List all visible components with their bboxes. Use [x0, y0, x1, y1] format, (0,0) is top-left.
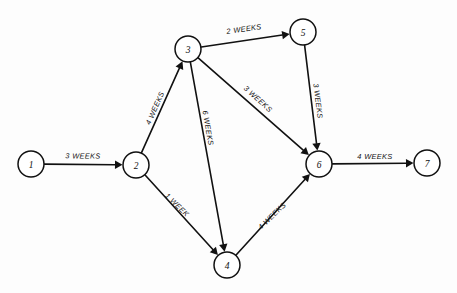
network-diagram-canvas: 3 WEEKS4 WEEKS1 WEEK2 WEEKS3 WEEKS6 WEEK… — [0, 0, 457, 293]
edge-line-6-to-7 — [333, 163, 407, 164]
edge-labels-layer: 3 WEEKS4 WEEKS1 WEEK2 WEEKS3 WEEKS6 WEEK… — [65, 22, 392, 231]
node-label-1: 1 — [29, 160, 34, 170]
node-2[interactable]: 2 — [123, 152, 149, 178]
edge-label-4-to-6: 4 WEEKS — [256, 200, 288, 231]
edge-label-6-to-7: 4 WEEKS — [357, 152, 392, 161]
edge-label-2-to-4: 1 WEEK — [163, 191, 191, 219]
arrowhead-icon-1-to-2 — [115, 161, 123, 169]
edge-line-3-to-5 — [201, 35, 282, 47]
network-diagram-svg: 3 WEEKS4 WEEKS1 WEEK2 WEEKS3 WEEKS6 WEEK… — [0, 0, 457, 293]
node-6[interactable]: 6 — [306, 151, 332, 177]
node-3[interactable]: 3 — [175, 36, 201, 62]
arrowhead-icon-6-to-7 — [406, 159, 414, 167]
node-4[interactable]: 4 — [214, 252, 240, 278]
node-7[interactable]: 7 — [414, 150, 440, 176]
node-label-3: 3 — [185, 45, 191, 55]
node-label-4: 4 — [225, 261, 230, 271]
node-label-6: 6 — [317, 160, 322, 170]
edge-label-3-to-5: 2 WEEKS — [225, 22, 262, 36]
node-label-5: 5 — [301, 28, 306, 38]
nodes-layer: 1234567 — [18, 19, 440, 278]
edge-label-1-to-2: 3 WEEKS — [65, 151, 100, 160]
node-1[interactable]: 1 — [18, 151, 44, 177]
edges-layer — [45, 35, 407, 255]
edge-line-1-to-2 — [45, 164, 116, 165]
edge-line-3-to-4 — [190, 62, 223, 244]
node-label-2: 2 — [134, 161, 139, 171]
arrowhead-icon-5-to-6 — [312, 143, 320, 151]
edge-label-2-to-3: 4 WEEKS — [144, 90, 167, 126]
node-5[interactable]: 5 — [290, 19, 316, 45]
arrowhead-icon-3-to-5 — [282, 31, 290, 39]
edge-line-2-to-3 — [142, 68, 180, 153]
arrowhead-icon-3-to-4 — [219, 244, 227, 252]
